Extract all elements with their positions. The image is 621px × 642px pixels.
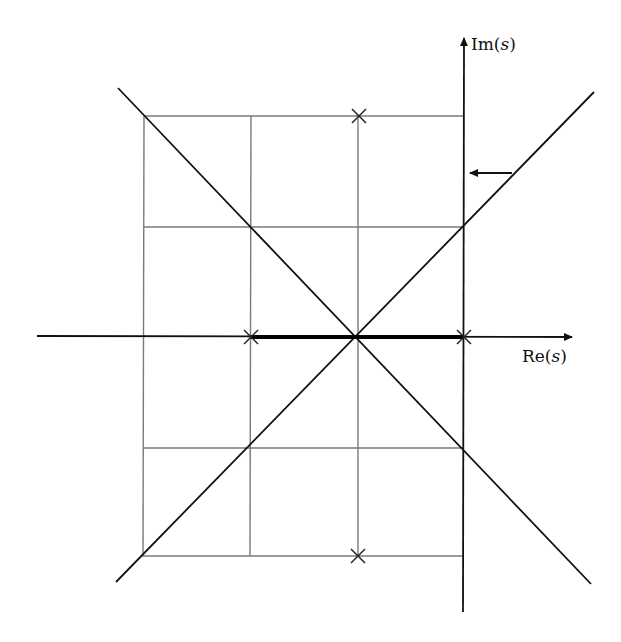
imaginary-axis [463, 38, 464, 612]
root-locus-diagram: Im(s) Re(s) [0, 0, 621, 642]
real-axis-label: Re(s) [522, 346, 567, 366]
imaginary-axis-label: Im(s) [471, 34, 516, 54]
